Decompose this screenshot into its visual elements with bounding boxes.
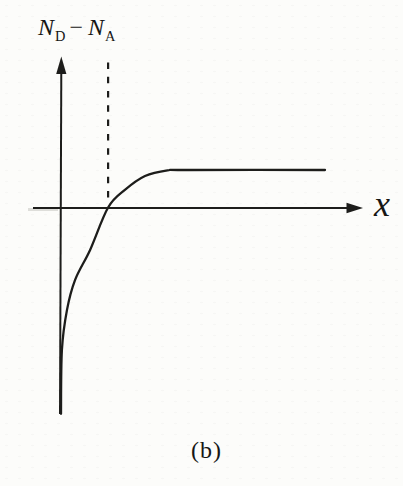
- plot-canvas: [0, 0, 403, 486]
- y-axis-label-term1-subscript: D: [55, 28, 65, 44]
- x-axis-label: x: [374, 186, 390, 222]
- x-axis: [33, 203, 363, 214]
- x-axis-arrow-icon: [347, 203, 364, 214]
- minus-sign: −: [69, 14, 84, 40]
- y-axis-arrow-icon: [56, 57, 66, 75]
- y-axis-label-term2-subscript: A: [105, 28, 115, 44]
- figure-caption: (b): [191, 437, 222, 464]
- doping-profile-curve: [61, 170, 325, 414]
- y-axis-label-term1: N: [38, 14, 55, 40]
- y-axis-label-term2: N: [88, 14, 105, 40]
- figure-panel-b: ND−NA x (b): [0, 0, 403, 486]
- y-axis-label: ND−NA: [38, 14, 115, 45]
